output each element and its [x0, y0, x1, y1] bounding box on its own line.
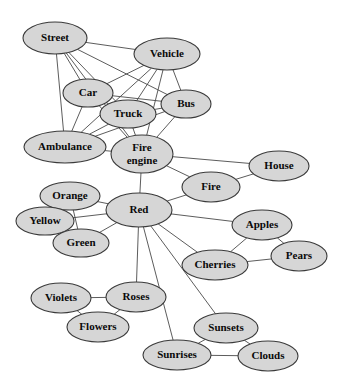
edge-red-roses — [137, 227, 139, 282]
edge-vehicle-bus — [173, 70, 181, 91]
semantic-network-diagram: StreetVehicleCarTruckBusAmbulanceFireeng… — [0, 0, 347, 389]
node-cherries[interactable]: Cherries — [182, 250, 248, 280]
node-house[interactable]: House — [249, 151, 309, 181]
edge-apples-cherries — [231, 238, 247, 252]
node-ambulance[interactable]: Ambulance — [24, 131, 106, 163]
edge-car-ambulance — [72, 107, 82, 132]
edge-fire-red — [167, 195, 186, 201]
node-flowers[interactable]: Flowers — [67, 312, 129, 342]
node-label-fire: Fire — [201, 180, 220, 192]
node-label-green: Green — [66, 236, 95, 248]
node-label-violets: Violets — [45, 291, 78, 303]
edge-sunsets-sunrises — [198, 339, 205, 343]
node-green[interactable]: Green — [53, 229, 109, 257]
node-label-roses: Roses — [123, 290, 151, 302]
edge-truck-fire_engine — [133, 128, 136, 136]
edge-roses-flowers — [114, 310, 120, 315]
node-bus[interactable]: Bus — [161, 90, 211, 118]
node-red[interactable]: Red — [106, 193, 172, 227]
node-label-street: Street — [41, 31, 69, 43]
node-orange[interactable]: Orange — [40, 182, 100, 210]
node-clouds[interactable]: Clouds — [238, 341, 298, 371]
edge-cherries-pears — [247, 259, 271, 262]
node-sunsets[interactable]: Sunsets — [194, 313, 258, 343]
edge-red-apples — [171, 214, 233, 222]
node-apples[interactable]: Apples — [232, 210, 292, 240]
node-label-house: House — [264, 159, 293, 171]
node-vehicle[interactable]: Vehicle — [134, 38, 200, 70]
node-fire_engine[interactable]: Fireengine — [111, 135, 173, 173]
node-car[interactable]: Car — [63, 79, 113, 107]
edge-apples-pears — [277, 238, 284, 243]
node-label-sunsets: Sunsets — [208, 321, 244, 333]
edge-red-cherries — [158, 224, 197, 252]
node-label-truck: Truck — [114, 107, 143, 119]
edge-violets-flowers — [77, 311, 82, 315]
node-street[interactable]: Street — [23, 22, 87, 54]
node-label-bus: Bus — [177, 97, 195, 109]
node-label-cherries: Cherries — [195, 258, 237, 270]
node-roses[interactable]: Roses — [106, 282, 166, 312]
edge-truck-bus — [154, 108, 162, 109]
edge-sunsets-clouds — [244, 340, 250, 344]
node-label-orange: Orange — [52, 189, 88, 201]
node-label-clouds: Clouds — [251, 349, 285, 361]
edge-fire_engine-house — [173, 157, 250, 164]
edge-fire-house — [236, 174, 254, 179]
node-violets[interactable]: Violets — [31, 283, 91, 313]
edge-red-yellow — [73, 214, 107, 218]
edge-bus-fire_engine — [157, 117, 175, 138]
graph-svg: StreetVehicleCarTruckBusAmbulanceFireeng… — [0, 0, 347, 389]
edge-street-vehicle — [86, 42, 136, 49]
node-label-red: Red — [130, 203, 149, 215]
node-label-pears: Pears — [286, 249, 313, 261]
node-label-sunrises: Sunrises — [157, 348, 197, 360]
edge-vehicle-car — [107, 65, 144, 83]
node-fire[interactable]: Fire — [182, 172, 240, 202]
node-truck[interactable]: Truck — [100, 100, 156, 128]
edge-red-green — [99, 223, 116, 233]
node-label-vehicle: Vehicle — [150, 47, 184, 59]
node-label-apples: Apples — [246, 218, 279, 230]
edge-vehicle-truck — [137, 69, 157, 100]
edge-red-orange — [98, 202, 109, 204]
node-label-car: Car — [79, 86, 97, 98]
node-sunrises[interactable]: Sunrises — [143, 340, 211, 370]
node-label-yellow: Yellow — [29, 214, 60, 226]
edge-ambulance-fire_engine — [105, 151, 111, 152]
node-layer: StreetVehicleCarTruckBusAmbulanceFireeng… — [16, 22, 327, 371]
edge-fire_engine-fire — [166, 166, 189, 177]
node-pears[interactable]: Pears — [271, 241, 327, 271]
edge-street-car — [64, 53, 80, 79]
node-label-flowers: Flowers — [79, 320, 117, 332]
edge-fire_engine-red — [140, 173, 141, 193]
node-label-ambulance: Ambulance — [38, 140, 92, 152]
